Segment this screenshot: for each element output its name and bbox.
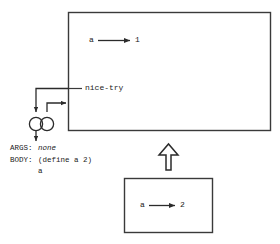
procedure-args-key: ARGS: [10, 145, 33, 153]
global-binding-a-value: 1 [135, 36, 140, 44]
procedure-body-value: (define a 2) [38, 157, 92, 165]
inner-binding-a-name: a [140, 201, 145, 209]
global-frame-box [69, 13, 271, 131]
procedure-body-value-2: a [38, 168, 43, 176]
procedure-body-key: BODY: [10, 157, 33, 165]
procedure-pointer-right [47, 103, 66, 112]
procedure-pointer-left [36, 89, 69, 113]
enclosing-environment-arrow-icon [159, 144, 178, 170]
procedure-args-value: none [38, 145, 56, 153]
environment-diagram-canvas: a 1 nice-try ARGS: none BODY: (define a … [0, 0, 280, 244]
global-binding-a-name: a [89, 36, 94, 44]
procedure-name-label: nice-try [85, 84, 123, 92]
inner-binding-a-value: 2 [180, 201, 185, 209]
